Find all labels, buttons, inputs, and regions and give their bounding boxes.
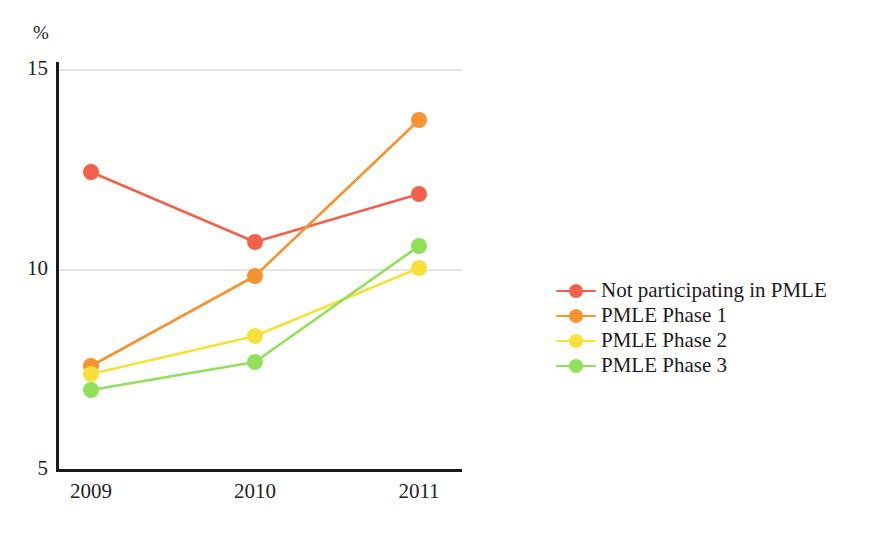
legend-swatch-icon — [556, 306, 596, 326]
data-point-marker — [411, 112, 427, 128]
data-series-layer — [83, 112, 427, 398]
data-point-marker — [411, 260, 427, 276]
x-axis-tick-label: 2010 — [205, 479, 305, 504]
data-point-marker — [83, 366, 99, 382]
chart-legend: Not participating in PMLEPMLE Phase 1PML… — [556, 278, 876, 378]
data-point-marker — [411, 238, 427, 254]
data-series — [83, 164, 427, 250]
legend-dot — [569, 359, 583, 373]
legend-swatch-icon — [556, 281, 596, 301]
legend-label: PMLE Phase 2 — [596, 328, 727, 353]
legend-item[interactable]: PMLE Phase 3 — [556, 353, 876, 378]
y-axis-tick-label: 10 — [0, 256, 48, 281]
x-axis-tick-label: 2011 — [369, 479, 469, 504]
legend-item[interactable]: PMLE Phase 2 — [556, 328, 876, 353]
data-point-marker — [247, 354, 263, 370]
y-axis-tick-label: 5 — [0, 456, 48, 481]
legend-swatch-icon — [556, 356, 596, 376]
line-chart-plot — [0, 0, 883, 540]
data-point-marker — [247, 268, 263, 284]
legend-swatch-icon — [556, 331, 596, 351]
legend-dot — [569, 334, 583, 348]
legend-dot — [569, 284, 583, 298]
legend-label: Not participating in PMLE — [596, 278, 827, 303]
axis-lines — [56, 62, 462, 471]
legend-label: PMLE Phase 3 — [596, 353, 727, 378]
data-point-marker — [83, 164, 99, 180]
chart-container: % 51015 200920102011 Not participating i… — [0, 0, 883, 540]
data-series — [83, 238, 427, 398]
x-axis-tick-label: 2009 — [41, 479, 141, 504]
data-point-marker — [83, 382, 99, 398]
data-point-marker — [247, 234, 263, 250]
data-point-marker — [247, 328, 263, 344]
legend-item[interactable]: Not participating in PMLE — [556, 278, 876, 303]
y-axis-tick-label: 15 — [0, 56, 48, 81]
series-line — [91, 172, 419, 242]
legend-item[interactable]: PMLE Phase 1 — [556, 303, 876, 328]
data-point-marker — [411, 186, 427, 202]
legend-dot — [569, 309, 583, 323]
legend-label: PMLE Phase 1 — [596, 303, 727, 328]
